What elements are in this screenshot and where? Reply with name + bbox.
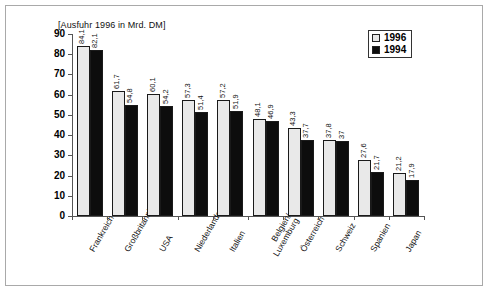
x-axis-category: Frankreich [88,214,116,253]
x-axis-tick [354,216,355,220]
bar-1994-schweiz[interactable] [336,141,349,216]
x-axis-category-label: Japan [404,228,424,253]
x-axis-tick [107,216,108,220]
bar-1994-grobritannien[interactable] [125,105,138,216]
bar-value-label: 43,3 [288,112,297,127]
y-axis-tick [68,34,72,35]
chart-title: [Ausfuhr 1996 in Mrd. DM] [58,20,166,30]
x-axis-tick [283,216,284,220]
bar-value-label: 17,9 [407,163,416,178]
y-axis-tick-label: 50 [54,109,65,120]
bar-1996-schweiz[interactable] [323,140,336,216]
y-axis-tick [68,155,72,156]
x-axis-tick [142,216,143,220]
bar-value-label: 37,8 [324,123,333,138]
x-axis-tick [424,216,425,220]
x-axis-category: USA [158,234,175,254]
bar-1996-belgienluxemburg[interactable] [253,119,266,216]
bar-group: 84,182,1 [77,34,103,216]
y-axis-tick-label: 10 [54,190,65,201]
x-axis-category: Schweiz [334,222,358,254]
x-axis-category: Belgien/Luxemburg [264,212,301,258]
y-axis-tick-label: 80 [54,48,65,59]
bar-group: 61,754,8 [112,34,138,216]
y-axis-tick [68,176,72,177]
bar-group: 37,837 [323,34,349,216]
bar-1994-sterreich[interactable] [301,140,314,216]
bar-group: 48,146,9 [253,34,279,216]
bar-value-label: 48,1 [253,102,262,117]
x-axis-category-label: Frankreich [87,214,116,254]
x-axis-category-label: USA [157,233,174,253]
x-axis-category: Japan [404,229,423,254]
y-axis-tick-label: 60 [54,89,65,100]
x-axis-tick [318,216,319,220]
x-axis-category: Spanien [369,222,392,254]
y-axis-tick [68,54,72,55]
bar-1996-italien[interactable] [217,100,230,216]
bar-1994-japan[interactable] [406,180,419,216]
bar-1996-spanien[interactable] [358,160,371,216]
y-axis-tick [68,95,72,96]
x-axis-category: Österreich [299,215,326,253]
bar-value-label: 57,2 [218,84,227,99]
bar-value-label: 61,7 [112,75,121,90]
bar-group: 57,251,9 [217,34,243,216]
y-axis-tick-label: 90 [54,28,65,39]
x-axis-category: Italien [228,229,247,253]
bar-value-label: 54,2 [161,90,170,105]
bar-value-label: 21,7 [372,156,381,171]
y-axis-tick-label: 0 [59,210,65,221]
y-axis-tick-label: 20 [54,170,65,181]
x-axis-tick [178,216,179,220]
bar-value-label: 37 [337,131,346,139]
y-axis-tick-label: 70 [54,68,65,79]
bar-value-label: 37,7 [301,123,310,138]
x-axis-category-label: Italien [228,229,248,254]
x-axis-category-label: Österreich [298,215,326,254]
bar-1994-italien[interactable] [230,111,243,216]
bar-1996-grobritannien[interactable] [112,91,125,216]
bar-value-label: 82,1 [90,33,99,48]
bar-value-label: 51,9 [231,94,240,109]
y-axis-tick-label: 30 [54,149,65,160]
y-axis-tick-label: 40 [54,129,65,140]
bar-value-label: 57,3 [183,84,192,99]
bar-1996-japan[interactable] [393,173,406,216]
y-axis-tick [68,196,72,197]
chart-frame: [Ausfuhr 1996 in Mrd. DM] 1996 1994 0102… [5,5,483,286]
bar-value-label: 46,9 [266,105,275,120]
bar-1994-frankreich[interactable] [90,50,103,216]
bar-1996-sterreich[interactable] [288,128,301,216]
bar-1996-frankreich[interactable] [77,46,90,216]
bar-group: 57,351,4 [182,34,208,216]
x-axis-category-label: Schweiz [333,221,357,253]
x-axis-tick [248,216,249,220]
bar-1996-usa[interactable] [147,94,160,216]
y-axis-tick [68,74,72,75]
bar-1994-belgienluxemburg[interactable] [266,121,279,216]
bar-value-label: 21,2 [394,157,403,172]
bar-value-label: 84,1 [77,29,86,44]
x-axis-category-label: Spanien [368,221,392,253]
bar-group: 27,621,7 [358,34,384,216]
x-axis-tick [213,216,214,220]
bar-value-label: 51,4 [196,95,205,110]
y-axis-tick [68,135,72,136]
bar-value-label: 54,8 [125,89,134,104]
plot-area: 010203040506070809084,182,1Frankreich61,… [72,34,424,216]
bar-1994-usa[interactable] [160,106,173,216]
bar-group: 60,154,2 [147,34,173,216]
bar-value-label: 27,6 [359,144,368,159]
y-axis-tick [68,115,72,116]
bar-1994-spanien[interactable] [371,172,384,216]
bar-group: 21,217,9 [393,34,419,216]
bar-group: 43,337,7 [288,34,314,216]
bar-1996-niederlande[interactable] [182,100,195,216]
bar-value-label: 60,1 [148,78,157,93]
x-axis-tick [389,216,390,220]
bar-1994-niederlande[interactable] [195,112,208,216]
x-axis-tick [72,216,73,220]
